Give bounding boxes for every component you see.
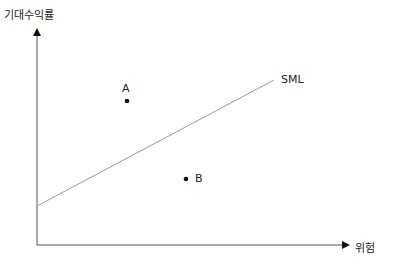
point-a-marker — [125, 99, 130, 104]
point-a-label: A — [122, 82, 130, 95]
sml-label: SML — [281, 73, 304, 86]
y-axis-label: 기대수익률 — [4, 6, 54, 22]
sml-line — [37, 80, 274, 206]
point-b-marker — [184, 177, 189, 182]
sml-diagram — [0, 0, 395, 265]
x-axis-label: 위험 — [355, 239, 375, 255]
point-b-label: B — [195, 172, 203, 185]
